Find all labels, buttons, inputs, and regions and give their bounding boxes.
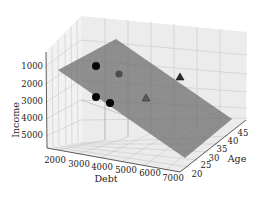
svg-text:6000: 6000 [139,168,161,178]
svg-text:4000: 4000 [91,162,113,172]
point-circle [92,62,100,70]
svg-text:2000: 2000 [21,79,43,89]
svg-text:3000: 3000 [68,159,90,169]
z-axis-ticks: 1000 2000 3000 4000 5000 [21,61,43,140]
chart-3d-scatter: 1000 2000 3000 4000 5000 Income 2000 300… [0,0,265,202]
svg-text:45: 45 [238,128,249,138]
z-axis-label: Income [10,102,21,138]
point-circle [92,93,100,101]
svg-text:1000: 1000 [21,61,43,71]
svg-text:5000: 5000 [21,130,43,140]
svg-text:3000: 3000 [21,96,43,106]
svg-text:35: 35 [217,144,228,154]
svg-text:20: 20 [192,169,203,179]
svg-text:30: 30 [209,153,220,163]
svg-text:7000: 7000 [162,173,184,183]
svg-text:4000: 4000 [21,113,43,123]
svg-text:5000: 5000 [115,165,137,175]
point-circle-highlight [115,70,122,77]
svg-text:2000: 2000 [44,155,66,165]
y-axis-label: Age [227,153,247,164]
point-circle [106,99,114,107]
x-axis-label: Debt [94,173,117,184]
